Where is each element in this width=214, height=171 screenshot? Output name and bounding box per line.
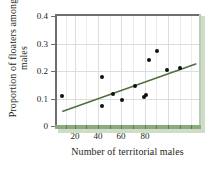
y-axis-label: Proportion of floaters among males — [7, 0, 29, 118]
x-axis-tick-label: 40 — [86, 131, 110, 142]
y-axis-tick-label: 0 — [18, 121, 48, 131]
x-axis-tick-label: 80 — [133, 131, 157, 142]
x-axis-tick-label: 60 — [109, 131, 133, 142]
x-axis-label: Number of territorial males — [40, 146, 214, 157]
data-point — [133, 84, 137, 88]
frame-shadow-right — [201, 16, 205, 131]
data-point — [144, 93, 148, 97]
regression-line — [55, 16, 200, 127]
scatter-plot-figure: 0.4 0.3 0.2 0.1 0 20 40 60 80 Number of … — [0, 0, 214, 171]
x-axis-tick-label: 20 — [63, 131, 87, 142]
data-point — [100, 104, 104, 108]
data-point — [178, 66, 182, 70]
